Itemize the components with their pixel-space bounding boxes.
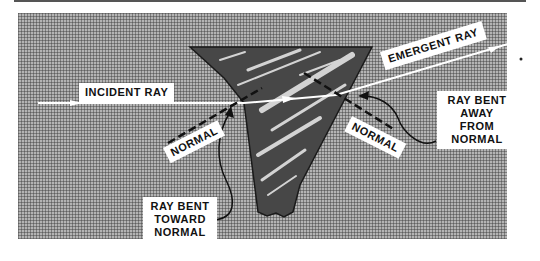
ray-bent-away-label: RAY BENT AWAY FROM NORMAL	[437, 91, 517, 149]
ray-bent-toward-label: RAY BENT TOWARD NORMAL	[143, 197, 217, 242]
speck-mark	[520, 58, 523, 61]
incident-ray-label: INCIDENT RAY	[79, 83, 174, 102]
